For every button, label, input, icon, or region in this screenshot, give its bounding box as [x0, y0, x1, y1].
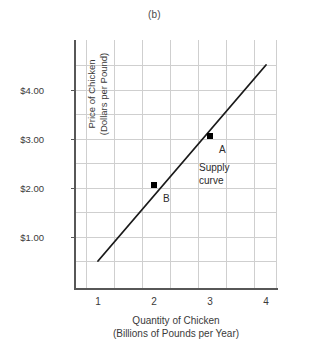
- supply-curve-annotation: Supply curve: [199, 162, 230, 187]
- x-axis-title-line-2: (Billions of Pounds per Year): [35, 327, 309, 340]
- data-point-label-a: A: [219, 144, 226, 155]
- supply-curve-annotation-line-2: curve: [199, 175, 230, 188]
- y-axis-title: Price of Chicken (Dollars per Pound): [86, 19, 110, 169]
- data-point-marker-b: [151, 182, 157, 188]
- plot-area: $4.00 $3.00 $2.00 $1.00 1 2 3 4 A B Supp…: [75, 40, 277, 288]
- panel-title: (b): [0, 9, 309, 20]
- data-point-label-b: B: [163, 193, 170, 204]
- x-axis: [74, 288, 278, 290]
- y-axis-title-line-1: Price of Chicken: [86, 19, 98, 169]
- y-tick-label-4: $4.00: [20, 85, 44, 96]
- x-axis-title: Quantity of Chicken (Billions of Pounds …: [35, 314, 309, 340]
- y-tick-label-2: $2.00: [20, 183, 44, 194]
- x-tick-label-1: 1: [95, 296, 101, 307]
- y-tick-label-1: $1.00: [20, 232, 44, 243]
- y-axis-title-line-2: (Dollars per Pound): [98, 19, 110, 169]
- y-tick-label-3: $3.00: [20, 134, 44, 145]
- x-tick-label-2: 2: [151, 296, 157, 307]
- supply-curve-line: [98, 65, 266, 261]
- x-tick-label-3: 3: [207, 296, 213, 307]
- supply-curve-annotation-line-1: Supply: [199, 162, 230, 175]
- x-axis-title-line-1: Quantity of Chicken: [35, 314, 309, 327]
- chart-figure: (b) $4.0: [0, 0, 309, 360]
- data-point-marker-a: [207, 133, 213, 139]
- x-tick-label-4: 4: [263, 296, 269, 307]
